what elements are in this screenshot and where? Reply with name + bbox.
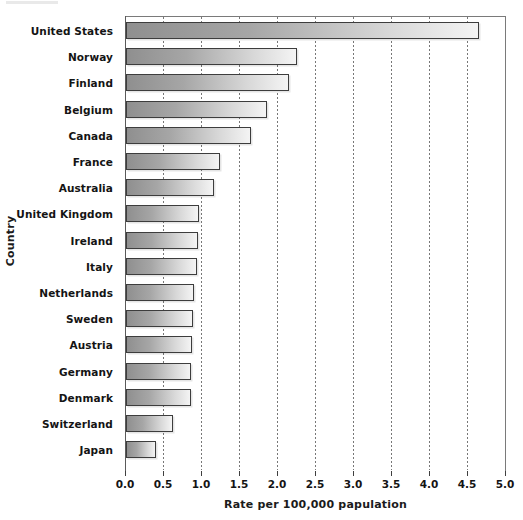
bar [126, 153, 220, 170]
category-label: Italy [86, 260, 113, 274]
bar-row [126, 70, 506, 96]
category-label: Norway [68, 50, 113, 64]
category-label: Netherlands [39, 286, 113, 300]
bar [126, 22, 479, 39]
bar-row [126, 280, 506, 306]
category-label: Ireland [70, 234, 113, 248]
x-tick [315, 471, 316, 476]
bar [126, 389, 191, 406]
bar-row [126, 149, 506, 175]
bar-row [126, 437, 506, 463]
category-label: France [73, 155, 113, 169]
category-label: United States [31, 24, 113, 38]
x-tick [353, 471, 354, 476]
category-label: Switzerland [42, 417, 113, 431]
bar-row [126, 332, 506, 358]
bar-row [126, 306, 506, 332]
x-tick [391, 471, 392, 476]
x-tick [125, 471, 126, 476]
bar [126, 284, 194, 301]
bar [126, 258, 197, 275]
bar [126, 415, 173, 432]
bar [126, 205, 199, 222]
bar [126, 74, 289, 91]
x-tick [505, 471, 506, 476]
bars-layer [126, 16, 505, 470]
x-tick [467, 471, 468, 476]
category-label: Denmark [59, 391, 113, 405]
category-label: Austria [70, 338, 113, 352]
bar-row [126, 411, 506, 437]
bar-row [126, 44, 506, 70]
x-axis-title: Rate per 100,000 papulation [125, 498, 506, 511]
bar [126, 336, 192, 353]
category-axis-labels: United StatesNorwayFinlandBelgiumCanadaF… [0, 16, 119, 470]
bar-row [126, 359, 506, 385]
x-tick [277, 471, 278, 476]
bar [126, 441, 156, 458]
x-tick [163, 471, 164, 476]
bar-row [126, 201, 506, 227]
bar [126, 101, 267, 118]
x-tick-label: 5.0 [482, 478, 523, 490]
bar [126, 127, 251, 144]
bar [126, 48, 297, 65]
bar [126, 363, 191, 380]
category-label: Australia [59, 181, 113, 195]
x-tick [239, 471, 240, 476]
x-tick [429, 471, 430, 476]
category-label: Sweden [66, 312, 113, 326]
category-label: Canada [68, 129, 113, 143]
bar-row [126, 175, 506, 201]
category-label: United Kingdom [16, 207, 113, 221]
bar-row [126, 97, 506, 123]
bar-row [126, 385, 506, 411]
category-label: Germany [59, 365, 113, 379]
x-tick [201, 471, 202, 476]
bar-row [126, 18, 506, 44]
bar-row [126, 254, 506, 280]
bar-row [126, 228, 506, 254]
bar [126, 179, 214, 196]
bar-row [126, 123, 506, 149]
bar-chart: Country United StatesNorwayFinlandBelgiu… [0, 0, 523, 520]
category-label: Belgium [64, 103, 113, 117]
category-label: Japan [79, 443, 113, 457]
category-label: Finland [68, 76, 113, 90]
bar [126, 310, 193, 327]
bar [126, 232, 198, 249]
